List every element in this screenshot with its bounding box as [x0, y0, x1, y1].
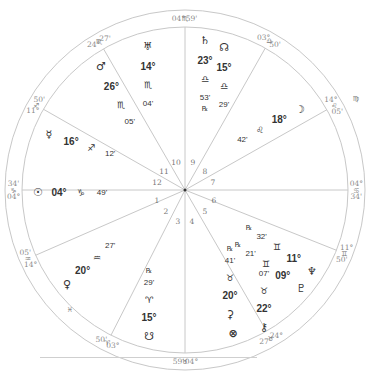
intercepted-sign-icon: ♓: [67, 306, 73, 314]
cusp-line-6: [185, 190, 336, 250]
planet-sign-icon: ♊: [273, 242, 281, 252]
planet-south-node: ☋15°♈29'℞: [141, 267, 156, 343]
planet-minute: 49': [97, 188, 108, 197]
cusp-label-1: 04°♑34': [7, 179, 21, 201]
neptune-icon: ♆: [307, 265, 317, 278]
cusp-minute: 34': [351, 192, 363, 201]
house-number-4: 4: [190, 217, 195, 226]
cusp-minute: 59': [173, 357, 185, 366]
cusp-minute: 50': [96, 335, 108, 344]
mars-icon: ♂: [96, 60, 106, 73]
planet-degree: 20°: [75, 265, 90, 276]
house-number-1: 1: [155, 196, 160, 205]
house-number-6: 6: [212, 196, 217, 205]
retrograde-icon: ℞: [235, 241, 241, 249]
moon-icon: ☽: [295, 103, 305, 116]
planet-degree: 23°: [197, 55, 212, 66]
planet-ceres: ⚳20°♉41'℞: [222, 245, 237, 321]
planet-minute: 32': [256, 232, 267, 241]
planet-degree: 26°: [104, 81, 119, 92]
planet-placements: ☉04°♑49'☿16°♐12'♂26°♏05'♅14°♏04'♄23°♎53'…: [33, 34, 317, 343]
planet-sign-icon: ♊: [262, 259, 270, 269]
planet-sign-icon: ♈: [145, 295, 154, 305]
planet-minute: 05': [125, 117, 136, 126]
planet-minute: 27': [105, 241, 116, 250]
planet-minute: 29': [144, 278, 155, 287]
planet-sign-icon: ♑: [77, 188, 85, 198]
planet-north-node: ☊15°♎29': [216, 41, 231, 109]
house-number-10: 10: [171, 158, 181, 167]
north-node-icon: ☊: [219, 41, 229, 54]
cusp-line-8: [185, 110, 327, 190]
house-number-2: 2: [164, 207, 169, 216]
sun-icon: ☉: [33, 186, 43, 199]
chiron-icon: ⚷: [260, 321, 268, 334]
cusp-minute: 05': [332, 107, 344, 116]
chart-wheel: 04°♑34'14°♒05'03°♈50'04°♉59'24°♉27'11°♊5…: [0, 0, 370, 380]
cusp-minute: 50': [269, 40, 281, 49]
planet-degree: 09°: [275, 270, 290, 281]
retrograde-icon: ℞: [202, 105, 208, 113]
planet-minute: 07': [259, 269, 270, 278]
house-number-3: 3: [176, 217, 181, 226]
planet-sign-icon: ♉: [260, 286, 268, 296]
cusp-minute: 27': [99, 34, 111, 43]
cusp-label-4: 04°♉59': [173, 357, 199, 366]
cusp-minute: 05': [20, 248, 32, 257]
house-number-8: 8: [203, 167, 208, 176]
planet-moon: ☽18°♌42': [237, 103, 305, 144]
planet-degree: 18°: [272, 114, 287, 125]
planet-sign-icon: ♎: [201, 74, 209, 84]
planet-degree: 15°: [141, 312, 156, 323]
uranus-icon: ♅: [143, 40, 153, 53]
retrograde-icon: ℞: [146, 267, 152, 275]
planet-chiron: ⚷22°♉07': [256, 269, 271, 334]
house-number-7: 7: [211, 178, 216, 187]
house-number-9: 9: [191, 158, 196, 167]
planet-sign-icon: ♌: [256, 125, 264, 135]
house-number-11: 11: [159, 167, 169, 176]
planet-venus: ♀20°♒27': [63, 241, 116, 291]
house-number-12: 12: [152, 178, 162, 187]
planet-minute: 29': [219, 100, 230, 109]
planet-degree: 15°: [216, 62, 231, 73]
south-node-icon: ☋: [144, 330, 154, 343]
ceres-icon: ⚳: [226, 308, 234, 321]
center-dot: [184, 189, 187, 192]
house-number-5: 5: [203, 207, 208, 216]
saturn-icon: ♄: [200, 34, 210, 47]
planet-minute: 53': [200, 93, 211, 102]
planet-degree: 14°: [140, 61, 155, 72]
cusp-label-7: 04°♋34': [350, 179, 364, 201]
cusp-minute: 50': [336, 255, 348, 264]
retrograde-icon: ℞: [246, 224, 252, 232]
planet-degree: 22°: [256, 303, 271, 314]
planet-uranus: ♅14°♏04': [140, 40, 155, 108]
planet-part-of-fortune: ⊗: [228, 327, 237, 340]
pluto-icon: ♇: [296, 282, 306, 295]
retrograde-icon: ℞: [227, 245, 233, 253]
planet-sun: ☉04°♑49': [33, 186, 108, 199]
planet-sign-icon: ♉: [226, 273, 234, 283]
venus-icon: ♀: [63, 278, 71, 291]
mercury-icon: ☿: [46, 128, 53, 141]
part-of-fortune-icon: ⊗: [228, 327, 237, 340]
divider-line: [40, 357, 257, 358]
planet-minute: 42': [237, 135, 248, 144]
planet-degree: 20°: [222, 290, 237, 301]
cusp-minute: 59': [186, 14, 198, 23]
planet-mercury: ☿16°♐12': [46, 128, 116, 158]
cusp-label-10: 04°♏59': [172, 14, 197, 23]
planet-sign-icon: ♒: [93, 253, 101, 263]
planet-degree: 16°: [64, 136, 79, 147]
planet-minute: 21': [245, 249, 256, 258]
cusp-minute: 34': [8, 179, 20, 188]
planet-pluto: ♇09°♊21'℞: [235, 241, 306, 295]
cusp-minute: 50': [34, 95, 46, 104]
planet-sign-icon: ♎: [220, 81, 228, 91]
planet-saturn: ♄23°♎53'℞: [197, 34, 212, 113]
planet-degree: 04°: [51, 187, 66, 198]
intercepted-sign-icon: ♍: [353, 95, 359, 103]
planet-sign-icon: ♏: [144, 80, 152, 90]
planet-minute: 04': [143, 99, 154, 108]
